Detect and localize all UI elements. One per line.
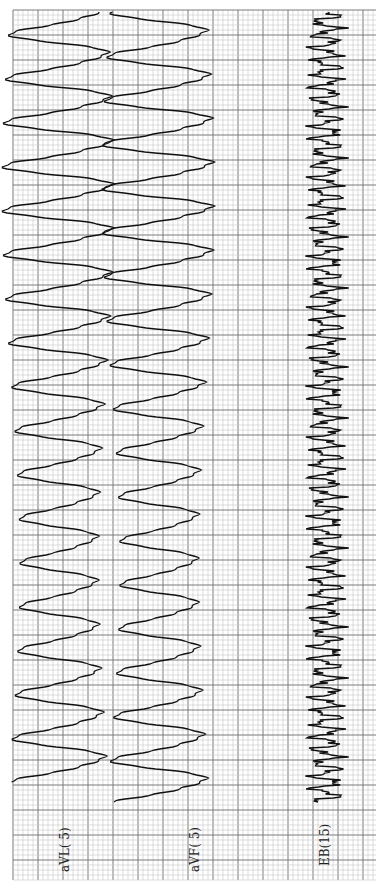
ecg-trace-eb15 — [305, 12, 349, 802]
ecg-traces — [2, 12, 349, 802]
lead-label-eb: EB(15) — [318, 824, 332, 866]
lead-label-avl: aVL( 5) — [58, 827, 72, 872]
lead-label-avf: aVF( 5) — [188, 827, 202, 872]
ecg-strip — [0, 0, 383, 896]
